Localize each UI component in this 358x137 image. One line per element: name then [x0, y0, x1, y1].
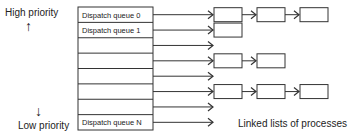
process-node — [214, 54, 242, 68]
process-node — [214, 23, 242, 37]
queue-label: Dispatch queue 1 — [82, 26, 140, 35]
process-node — [257, 54, 285, 68]
process-node — [257, 85, 285, 99]
process-node — [257, 8, 285, 22]
process-node — [214, 85, 242, 99]
dispatch-queue-diagram: Dispatch queue 0Dispatch queue 1Dispatch… — [0, 0, 358, 137]
process-node — [300, 8, 328, 22]
process-node — [300, 85, 328, 99]
process-node — [214, 8, 242, 22]
queue-label: Dispatch queue N — [82, 118, 142, 127]
queue-label: Dispatch queue 0 — [82, 11, 140, 20]
